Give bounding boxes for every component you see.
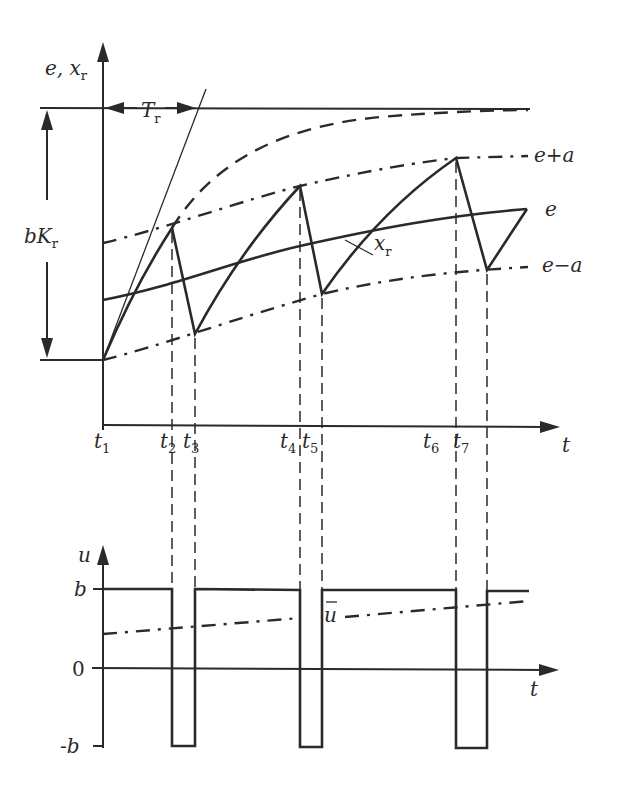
upper-t-arrow-icon bbox=[540, 421, 560, 433]
upper-y-label: e, xr bbox=[45, 56, 88, 83]
xr-label: xr bbox=[374, 231, 392, 259]
e-label: e bbox=[545, 197, 557, 221]
e-minus-a-label: e−a bbox=[542, 253, 583, 277]
minus-b-label: -b bbox=[60, 734, 80, 758]
lower-panel: u t b 0 -b u bbox=[60, 543, 559, 758]
tr-arrow-left-icon bbox=[105, 102, 124, 114]
e-plus-a-curve bbox=[103, 156, 528, 243]
tr-arrow-right-icon bbox=[177, 102, 196, 114]
upper-y-arrow-icon bbox=[97, 42, 109, 62]
upper-t-label: t bbox=[562, 433, 571, 457]
b-label: b bbox=[74, 577, 87, 601]
tick-t4: t4 bbox=[280, 429, 296, 456]
tick-t3: t3 bbox=[183, 429, 199, 456]
bkr-arrow-down-icon bbox=[41, 338, 53, 358]
xr-pointer-line bbox=[345, 240, 373, 255]
bkr-label: bKr bbox=[24, 224, 59, 251]
tick-t1: t1 bbox=[94, 429, 110, 456]
e-minus-a-curve bbox=[103, 267, 528, 360]
zero-label: 0 bbox=[72, 657, 85, 681]
lower-u-label: u bbox=[78, 543, 91, 567]
tr-label: Tr bbox=[141, 98, 161, 126]
asymptotic-response-curve bbox=[172, 110, 528, 228]
lower-t-label: t bbox=[530, 677, 539, 701]
upper-t-axis bbox=[103, 425, 545, 427]
control-diagram: e, xr t bKr Tr xr bbox=[0, 0, 626, 787]
lower-u-arrow-icon bbox=[97, 545, 109, 565]
lower-t-axis bbox=[92, 668, 545, 670]
u-bar-line bbox=[103, 601, 529, 634]
lower-t-arrow-icon bbox=[539, 664, 559, 676]
tick-t5: t5 bbox=[302, 429, 318, 456]
projection-lines bbox=[172, 162, 487, 590]
bkr-arrow-up-icon bbox=[41, 110, 53, 130]
xr-curve bbox=[103, 158, 527, 360]
upper-panel: e, xr t bKr Tr xr bbox=[24, 42, 583, 457]
tick-t6: t6 bbox=[423, 429, 439, 456]
tick-t2: t2 bbox=[160, 429, 176, 456]
u-bar-label: u bbox=[324, 603, 337, 627]
e-plus-a-label: e+a bbox=[534, 143, 575, 167]
